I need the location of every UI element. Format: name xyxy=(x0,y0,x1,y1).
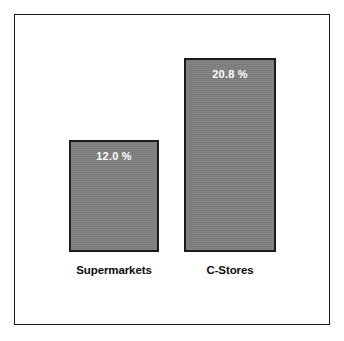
bar-chart: 12.0 % Supermarkets 20.8 % C-Stores xyxy=(0,0,344,341)
bar-supermarkets[interactable]: 12.0 % xyxy=(69,140,159,252)
category-label-supermarkets: Supermarkets xyxy=(69,265,159,277)
bar-c-stores[interactable]: 20.8 % xyxy=(184,58,276,252)
plot-area: 12.0 % Supermarkets 20.8 % C-Stores xyxy=(0,0,344,341)
bar-value-label-c-stores: 20.8 % xyxy=(186,69,274,80)
bar-value-label-supermarkets: 12.0 % xyxy=(71,151,157,162)
category-label-c-stores: C-Stores xyxy=(184,265,276,277)
